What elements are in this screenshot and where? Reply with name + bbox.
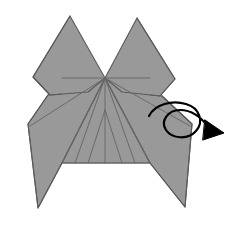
origami-diagram-figure (0, 0, 237, 225)
origami-diagram-canvas (0, 0, 237, 225)
